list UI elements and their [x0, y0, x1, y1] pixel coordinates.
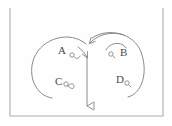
- diagram-svg: [0, 0, 172, 126]
- label-b: B: [120, 47, 127, 58]
- arrow-converge-right: [90, 33, 124, 43]
- arrow-converge-center: [78, 47, 87, 57]
- marker-tail-c: [64, 82, 74, 89]
- marker-tail-d: [125, 81, 131, 87]
- label-c: C: [55, 76, 62, 87]
- arc-right-large: [92, 33, 144, 97]
- label-a: A: [58, 45, 66, 56]
- marker-tail-a: [70, 53, 80, 59]
- marker-tail-b: [109, 52, 115, 58]
- label-d: D: [116, 74, 124, 85]
- diagram-canvas: A B C D: [0, 0, 172, 126]
